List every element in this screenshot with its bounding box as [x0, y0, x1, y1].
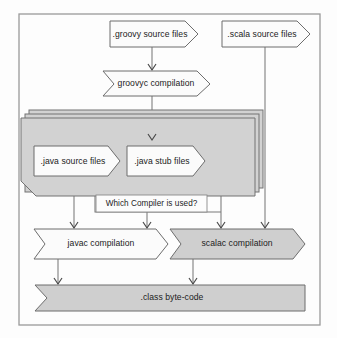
- node-groovy-source-files[interactable]: .groovy source files: [110, 21, 198, 47]
- diagram-canvas: .groovy source files .scala source files…: [0, 0, 337, 338]
- class-byte-code-label: .class byte-code: [141, 292, 204, 302]
- which-compiler-label: Which Compiler is used?: [106, 199, 198, 208]
- node-which-compiler-label[interactable]: Which Compiler is used?: [96, 195, 207, 212]
- node-java-source-files[interactable]: .java source files: [34, 146, 120, 176]
- node-groovyc-compilation[interactable]: groovyc compilation: [103, 71, 210, 96]
- compilation-flow-diagram: .groovy source files .scala source files…: [0, 0, 337, 338]
- javac-label: javac compilation: [67, 238, 135, 248]
- scalac-label: scalac compilation: [201, 238, 272, 248]
- node-scalac-compilation[interactable]: scalac compilation: [170, 229, 305, 259]
- groovyc-label: groovyc compilation: [118, 78, 195, 88]
- scala-source-label: .scala source files: [227, 29, 296, 39]
- node-scala-source-files[interactable]: .scala source files: [222, 21, 310, 47]
- java-stub-label: .java stub files: [134, 156, 189, 166]
- java-source-label: .java source files: [41, 156, 106, 166]
- node-class-byte-code[interactable]: .class byte-code: [35, 285, 305, 311]
- groovy-source-label: .groovy source files: [112, 29, 187, 39]
- node-java-stub-files[interactable]: .java stub files: [127, 146, 205, 176]
- node-javac-compilation[interactable]: javac compilation: [34, 229, 168, 259]
